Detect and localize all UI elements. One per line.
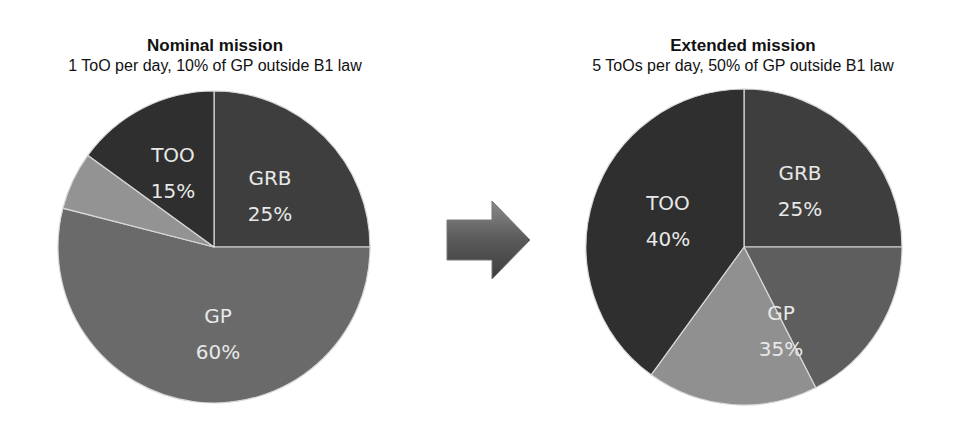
slice-pct-label-too: 40%	[646, 227, 690, 251]
slice-pct-label-too: 15%	[151, 179, 195, 203]
pie-nominal: GRB25%GP60%TOO15%	[58, 91, 370, 403]
slice-label-too: TOO	[150, 143, 195, 167]
pie-extended: GRB25%TOO40%GP35%	[586, 89, 902, 405]
slice-pct-label-gp: 35%	[759, 337, 803, 361]
charts-canvas: GRB25%GP60%TOO15% GRB25%TOO40%GP35%	[0, 0, 966, 438]
slice-pct-label-grb: 25%	[778, 197, 822, 221]
slice-label-gp: GP	[204, 304, 232, 328]
slice-label-grb: GRB	[778, 161, 821, 185]
slice-pct-label-gp: 60%	[196, 340, 240, 364]
slice-label-too: TOO	[645, 191, 690, 215]
slice-label-gp: GP	[767, 301, 795, 325]
slice-label-grb: GRB	[248, 166, 291, 190]
right-arrow-icon	[447, 201, 530, 279]
pie-slice-grb	[744, 89, 902, 247]
slice-pct-label-grb: 25%	[248, 202, 292, 226]
